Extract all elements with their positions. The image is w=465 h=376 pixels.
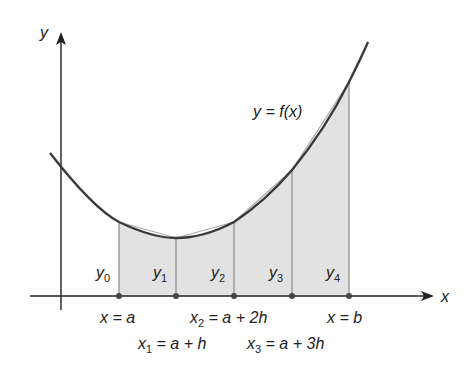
x-label-x3: x3 = a + 3h [246, 335, 324, 355]
x-axis-label: x [440, 288, 450, 305]
x-label-a: x = a [99, 309, 135, 326]
curve-label: y = f(x) [252, 103, 302, 120]
trapezoid-diagram: y x y = f(x) y0 y1 y2 y3 y4 x = a x2 = a… [0, 0, 465, 376]
x-label-b: x = b [326, 309, 362, 326]
ordinate-label-y0: y0 [95, 264, 110, 284]
x-label-x2: x2 = a + 2h [189, 309, 267, 329]
x-label-x1: x1 = a + h [137, 335, 206, 355]
y-axis-label: y [39, 24, 49, 41]
